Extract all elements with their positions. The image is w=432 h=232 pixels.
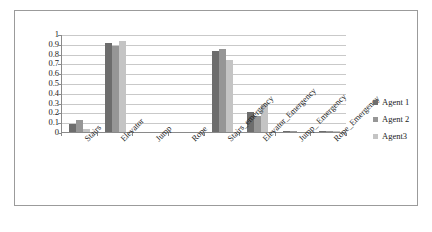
legend-swatch-icon: [373, 134, 378, 139]
x-axis-labels: StairsElevatorJumpRopeStairs_emergencyEl…: [61, 137, 361, 213]
chart-screenshot: 10.90.80.70.60.50.40.30.20.10 StairsElev…: [0, 0, 432, 232]
legend-item: Agent3: [373, 131, 432, 141]
chart-frame: 10.90.80.70.60.50.40.30.20.10 StairsElev…: [14, 10, 418, 206]
bar: [326, 131, 333, 132]
y-tick-label: 1: [37, 30, 59, 39]
y-tick-label: 0.7: [37, 59, 59, 68]
legend-swatch-icon: [373, 100, 378, 105]
y-tick-label: 0: [37, 128, 59, 137]
bar-group: [205, 35, 241, 132]
legend-label: Agent3: [382, 132, 407, 141]
y-tick-label: 0.6: [37, 69, 59, 78]
plot-area: [61, 35, 346, 133]
y-tick-label: 0.4: [37, 89, 59, 98]
y-tick-label: 0.5: [37, 79, 59, 88]
legend-item: Agent 1: [373, 97, 432, 107]
bar: [283, 131, 290, 132]
bar: [226, 60, 233, 132]
bar-group: [62, 35, 98, 132]
bar: [219, 49, 226, 132]
legend-label: Agent 1: [382, 98, 409, 107]
y-axis: 10.90.80.70.60.50.40.30.20.10: [33, 35, 59, 133]
bar: [105, 43, 112, 132]
x-tick-mark: [61, 133, 62, 136]
bar: [119, 41, 126, 132]
bar-group: [98, 35, 134, 132]
bar: [212, 51, 219, 132]
chart-legend: Agent 1Agent 2Agent3: [373, 97, 432, 148]
y-tick-label: 0.2: [37, 108, 59, 117]
legend-swatch-icon: [373, 117, 378, 122]
bar: [76, 120, 83, 132]
legend-label: Agent 2: [382, 115, 409, 124]
bar: [112, 46, 119, 132]
bar-group: [169, 35, 205, 132]
bar: [69, 124, 76, 132]
y-tick-label: 0.9: [37, 40, 59, 49]
y-tick-label: 0.1: [37, 118, 59, 127]
bar: [319, 131, 326, 132]
bar: [290, 131, 297, 132]
legend-item: Agent 2: [373, 114, 432, 124]
